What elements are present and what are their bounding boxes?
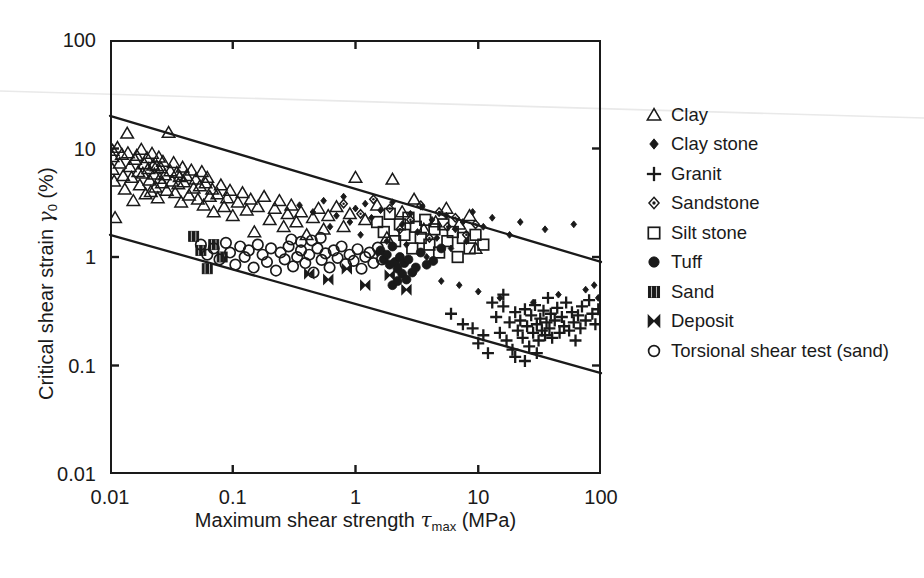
y-axis-title: Critical shear strain γ0 (%)	[34, 167, 60, 400]
data-point-open-triangle	[349, 171, 362, 182]
data-point-open-circle	[248, 262, 258, 272]
dotted-diamond-icon	[641, 190, 667, 216]
legend-item-torsional-shear-test-sand[interactable]: Torsional shear test (sand)	[641, 336, 921, 366]
data-point-open-circle	[324, 262, 334, 272]
data-point-open-triangle	[240, 204, 253, 215]
legend-item-sand[interactable]: Sand	[641, 277, 921, 307]
data-point-filled-diamond	[456, 282, 462, 289]
plus-icon	[641, 161, 667, 187]
data-point-plus	[583, 294, 595, 306]
data-point-filled-square	[202, 264, 212, 274]
filled-diamond-icon	[641, 131, 667, 157]
data-point-filled-diamond	[595, 294, 601, 301]
legend-item-clay[interactable]: Clay	[641, 100, 921, 130]
x-axis-title-subscript: max	[432, 519, 457, 534]
data-point-bowtie-x	[385, 271, 394, 280]
data-point-filled-diamond	[475, 288, 481, 295]
data-point-open-square	[648, 227, 659, 238]
x-tick-label: 1	[350, 486, 361, 509]
data-point-open-triangle	[277, 221, 290, 232]
data-point-dotted-diamond	[649, 198, 659, 209]
data-point-filled-circle	[649, 257, 659, 267]
data-point-filled-circle	[404, 255, 413, 264]
data-point-plus	[647, 167, 661, 181]
data-point-open-square	[452, 252, 463, 263]
data-point-filled-diamond	[347, 219, 353, 226]
data-point-filled-diamond	[334, 212, 340, 219]
data-point-filled-diamond	[591, 282, 597, 289]
data-point-filled-circle	[429, 256, 438, 265]
data-point-filled-diamond	[542, 226, 548, 233]
data-point-plus	[490, 311, 502, 323]
y-tick-label: 10	[0, 137, 96, 160]
x-axis-title-symbol: τ	[421, 508, 432, 532]
data-point-filled-diamond	[358, 231, 364, 238]
data-point-open-triangle	[258, 191, 271, 202]
data-point-bowtie-x	[402, 285, 411, 294]
open-square-icon	[641, 220, 667, 246]
data-point-filled-diamond	[362, 200, 368, 207]
data-point-open-circle	[356, 263, 366, 273]
data-point-filled-diamond	[489, 214, 495, 221]
legend: ClayClay stoneGranitSandstoneSilt stoneT…	[641, 100, 921, 366]
data-point-plus	[542, 292, 554, 304]
legend-label: Deposit	[667, 310, 734, 332]
data-point-filled-diamond	[321, 197, 327, 204]
legend-label: Sand	[667, 281, 714, 303]
legend-item-silt-stone[interactable]: Silt stone	[641, 218, 921, 248]
open-triangle-icon	[641, 102, 667, 128]
data-point-bowtie-x	[361, 281, 370, 290]
data-point-filled-circle	[388, 242, 397, 251]
data-point-open-triangle	[106, 163, 119, 174]
data-point-open-triangle	[248, 226, 261, 237]
legend-item-tuff[interactable]: Tuff	[641, 248, 921, 278]
data-point-plus	[506, 344, 518, 356]
series-granit	[445, 289, 604, 367]
data-point-filled-square	[189, 231, 199, 241]
data-point-open-triangle	[121, 127, 134, 138]
data-point-filled-circle	[437, 244, 446, 253]
x-tick-label: 0.1	[219, 486, 247, 509]
y-axis-title-prefix: Critical shear strain	[35, 223, 57, 400]
data-point-filled-diamond	[438, 278, 444, 285]
data-point-filled-diamond	[517, 219, 523, 226]
legend-label: Silt stone	[667, 222, 747, 244]
data-point-open-circle	[230, 259, 240, 269]
legend-item-clay-stone[interactable]: Clay stone	[641, 130, 921, 160]
data-point-filled-circle	[411, 263, 420, 272]
x-axis-title-suffix: (MPa)	[456, 509, 516, 531]
legend-item-deposit[interactable]: Deposit	[641, 307, 921, 337]
legend-label: Clay	[667, 104, 708, 126]
data-point-plus	[570, 335, 582, 347]
open-circle-icon	[641, 338, 667, 364]
data-point-filled-diamond	[556, 291, 562, 298]
data-point-bowtie-x	[648, 316, 659, 327]
data-point-filled-square	[648, 286, 659, 297]
y-axis-title-suffix: (%)	[35, 167, 57, 204]
filled-circle-icon	[641, 249, 667, 275]
legend-label: Torsional shear test (sand)	[667, 340, 889, 362]
y-tick-label: 100	[0, 29, 96, 52]
figure-container: 0.010.1110100 0.010.1110100 Maximum shea…	[0, 0, 924, 578]
data-point-open-triangle	[386, 173, 399, 184]
data-point-open-circle	[271, 265, 281, 275]
data-point-bowtie-x	[324, 275, 333, 284]
data-point-filled-diamond	[470, 209, 476, 216]
data-point-open-circle	[253, 239, 263, 249]
bowtie-x-icon	[641, 308, 667, 334]
data-point-filled-diamond	[650, 139, 658, 149]
data-point-open-triangle	[263, 214, 276, 225]
data-point-filled-diamond	[571, 221, 577, 228]
data-point-plus	[497, 300, 509, 312]
data-point-filled-diamond	[583, 286, 589, 293]
y-axis-title-subscript: 0	[45, 204, 60, 211]
data-point-plus	[486, 297, 498, 309]
y-tick-label: 0.01	[0, 463, 96, 486]
legend-item-granit[interactable]: Granit	[641, 159, 921, 189]
legend-item-sandstone[interactable]: Sandstone	[641, 189, 921, 219]
legend-label: Tuff	[667, 251, 702, 273]
x-tick-label: 10	[467, 486, 489, 509]
data-point-open-triangle	[127, 195, 140, 206]
data-point-open-triangle	[244, 193, 257, 204]
data-point-open-triangle	[647, 108, 660, 120]
